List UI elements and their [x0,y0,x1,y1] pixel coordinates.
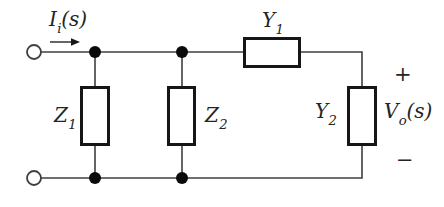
z2-subscript: 2 [219,117,227,132]
y1-symbol: Y [262,8,275,32]
z1-label: Z1 [54,104,76,126]
polarity-plus-sign: + [394,64,412,85]
input-current-suffix: (s) [61,7,87,31]
y2-symbol: Y [315,99,328,123]
z1-subscript: 1 [68,117,76,132]
z2-label: Z2 [205,104,227,126]
z1-symbol: Z [54,103,68,127]
y1-label: Y1 [262,9,284,31]
top-wire-right-segment [300,52,362,87]
circuit-diagram: Ii(s) Y1 Z1 Z2 Y2 Vo(s) + − [0,0,444,207]
bottom-wire [41,144,362,178]
z1-component-box [82,88,109,145]
current-arrow-head-icon [71,38,80,46]
y1-subscript: 1 [275,22,283,37]
input-current-subscript: i [57,21,61,36]
output-voltage-suffix: (s) [406,99,432,123]
output-voltage-subscript: o [399,113,407,128]
junction-dot-bottom-node2 [176,172,188,184]
output-voltage-symbol: V [384,99,398,123]
z2-component-box [169,88,195,145]
junction-dot-bottom-node1 [89,172,101,184]
junction-dot-top-node1 [89,46,101,58]
junction-dot-top-node2 [176,46,188,58]
top-input-terminal [27,45,41,59]
y1-component-box [245,39,300,67]
z2-symbol: Z [205,103,219,127]
output-voltage-label: Vo(s) [384,100,432,122]
y2-label: Y2 [315,100,337,122]
input-current-symbol: I [49,7,57,31]
y2-subscript: 2 [328,113,336,128]
input-current-label: Ii(s) [49,8,87,30]
bottom-input-terminal [27,171,41,185]
y2-component-box [349,88,376,145]
polarity-minus-sign: − [396,150,414,171]
